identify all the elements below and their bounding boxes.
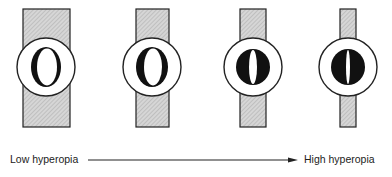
reflex-streak xyxy=(346,50,350,84)
pupil-panel-1 xyxy=(17,9,75,127)
arrow-head-icon xyxy=(288,158,298,163)
reflex-streak xyxy=(37,49,57,86)
reflex-streak xyxy=(144,49,162,86)
hyperopia-pupil-diagram xyxy=(0,0,392,177)
pupil-panel-2 xyxy=(123,9,181,127)
low-hyperopia-label: Low hyperopia xyxy=(10,153,78,165)
pupil-panel-4 xyxy=(319,9,377,127)
progression-arrow xyxy=(88,158,298,163)
high-hyperopia-label: High hyperopia xyxy=(304,153,375,165)
pupil-panel-3 xyxy=(224,9,282,127)
reflex-streak xyxy=(249,50,257,84)
